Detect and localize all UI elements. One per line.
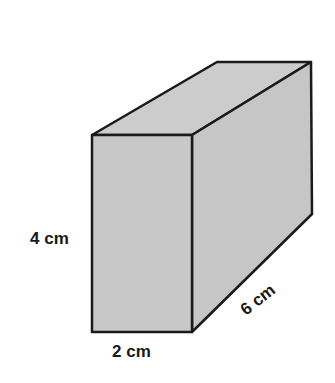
depth-label: 6 cm [237,280,279,319]
front-face [92,135,192,332]
width-label: 2 cm [112,342,151,361]
prism-diagram: 4 cm 2 cm 6 cm [0,0,335,383]
height-label: 4 cm [30,229,69,248]
